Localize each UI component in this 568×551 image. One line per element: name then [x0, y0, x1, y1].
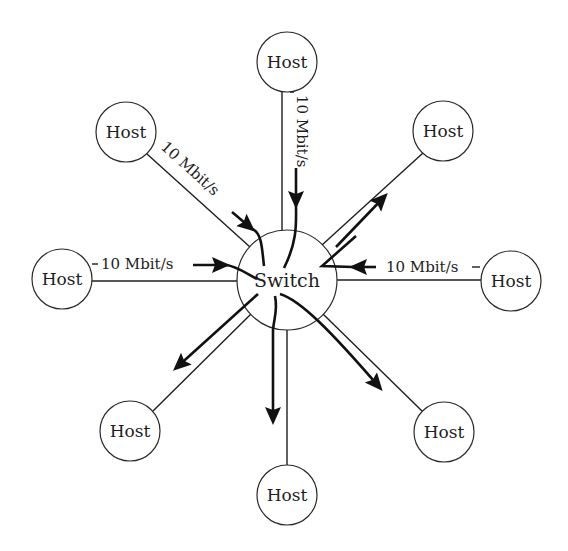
- host-label: Host: [424, 422, 465, 442]
- flows: [176, 168, 385, 421]
- rate-label-top-left: 10 Mbit/s: [157, 138, 223, 200]
- flow-arrow-bottom-left: [176, 294, 258, 368]
- host-label: Host: [491, 271, 532, 291]
- rate-label-left: 10 Mbit/s: [101, 255, 173, 273]
- switch-node: Switch: [237, 230, 337, 330]
- host-top: Host: [257, 32, 317, 92]
- host-right: Host: [481, 251, 541, 311]
- host-label: Host: [110, 421, 151, 441]
- link-top-right: [322, 153, 423, 245]
- rate-label-top: 10 Mbit/s: [293, 95, 311, 167]
- host-label: Host: [106, 122, 147, 142]
- host-label: Host: [423, 121, 464, 141]
- host-bottom-right: Host: [414, 402, 474, 462]
- switch-label: Switch: [254, 269, 320, 291]
- host-label: Host: [267, 485, 308, 505]
- link-bottom-right: [323, 314, 422, 411]
- link-bottom-left: [153, 314, 251, 411]
- host-left: Host: [32, 249, 92, 309]
- flow-arrow-top-left: [232, 212, 252, 229]
- host-label: Host: [267, 52, 308, 72]
- host-bottom-left: Host: [100, 401, 160, 461]
- host-label: Host: [42, 269, 83, 289]
- host-top-right: Host: [413, 101, 473, 161]
- rate-label-right: 10 Mbit/s: [386, 258, 458, 276]
- host-bottom: Host: [257, 465, 317, 525]
- star-topology-diagram: Switch 10 Mbit/s 10 Mbit/s 10 Mbit/s: [0, 0, 568, 551]
- flow-arrow-top-right: [336, 196, 385, 247]
- host-top-left: Host: [96, 102, 156, 162]
